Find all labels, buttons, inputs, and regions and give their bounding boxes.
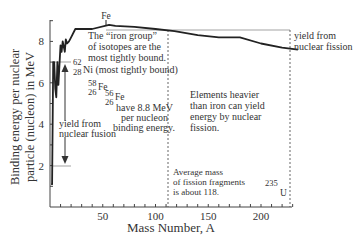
svg-text:235: 235 [265,178,278,188]
y-tick-label: 4 [39,118,45,130]
svg-text:nuclear fusion: nuclear fusion [59,128,116,139]
binding-energy-chart: 2468 50100150200 Mass Number, A Binding … [0,0,363,246]
svg-text:than iron can yield: than iron can yield [190,100,265,111]
y-tick-label: 2 [39,160,45,172]
iron-group-note: The “iron group” of isotopes are the mos… [88,30,166,63]
svg-text:U: U [280,188,287,198]
x-tick-label: 50 [97,210,109,222]
u235-label: 235 U [265,178,287,198]
x-tick-label: 200 [253,210,270,222]
svg-text:Ni (most tightly bound): Ni (most tightly bound) [83,64,178,76]
svg-text:of isotopes are the: of isotopes are the [88,41,162,52]
fusion-arrow [62,64,69,164]
x-axis-title: Mass Number, A [127,220,216,235]
svg-text:is about 118.: is about 118. [173,187,219,197]
svg-text:28: 28 [73,67,82,77]
svg-text:most tightly bound.: most tightly bound. [88,52,166,63]
fe-peak-label: Fe [101,11,111,21]
y-tick-label: 8 [39,35,45,47]
y-tick-label: 6 [39,77,45,89]
fe56-label: 56 26 Fe have 8.8 MeV per nucleon bindin… [105,88,175,133]
heavier-elements-note: Elements heavier than iron can yield ene… [190,89,265,133]
svg-text:of fission fragments: of fission fragments [173,177,245,187]
svg-text:energy by nuclear: energy by nuclear [190,111,262,122]
svg-text:26: 26 [105,97,114,107]
svg-text:62: 62 [73,57,82,67]
y-tick-labels: 2468 [39,35,45,171]
svg-text:Average mass: Average mass [173,167,224,177]
svg-text:26: 26 [88,87,97,97]
fission-yield-label: yield from nuclear fission [294,30,353,52]
svg-text:yield from: yield from [294,30,336,41]
svg-text:Fe: Fe [115,92,125,102]
svg-text:binding energy.: binding energy. [113,122,175,133]
svg-text:The “iron group”: The “iron group” [88,30,157,41]
svg-text:Elements heavier: Elements heavier [190,89,260,100]
fusion-yield-label: yield from nuclear fusion [59,118,116,139]
y-axis-title-line2: particle (nucleon) in MeV [23,52,37,182]
svg-text:fission.: fission. [190,122,219,133]
svg-text:nuclear fission: nuclear fission [294,41,353,52]
avg-mass-note: Average mass of fission fragments is abo… [173,167,245,197]
y-axis-title-line1: Binding energy per nuclear [8,48,22,185]
